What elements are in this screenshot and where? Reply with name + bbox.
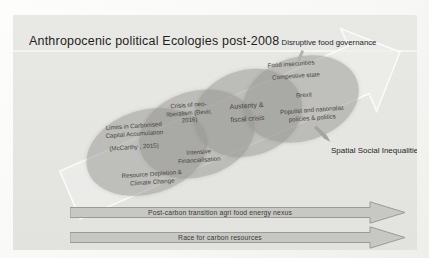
figure-canvas: Anthropocenic political Ecologies post-2…	[0, 0, 429, 258]
austerity-heading: Austerity & fiscal crisis	[221, 97, 273, 126]
banner-arrow-carbon-race: Race for carbon resources	[70, 226, 406, 249]
banner-arrow-post-carbon: Post-carbon transition agri food energy …	[70, 201, 406, 224]
spatial-social-inequalities-label: Spatial Social Inequalities	[331, 146, 417, 155]
disruptive-food-governance-label: Disruptive food governance	[264, 38, 394, 47]
slide-background: Anthropocenic political Ecologies post-2…	[13, 15, 417, 250]
banner-label-post-carbon: Post-carbon transition agri food energy …	[70, 201, 370, 224]
banner-label-carbon-race: Race for carbon resources	[70, 226, 370, 249]
neoliberal-crisis-heading: Crisis of neo-liberalism (Bevir, 2016)	[159, 99, 218, 126]
